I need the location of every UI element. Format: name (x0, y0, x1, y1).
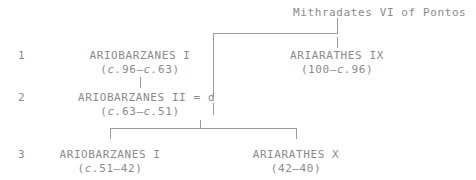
person-dates-ariobarzanes-i-gen3: (c.51–42) (77, 162, 142, 175)
circa-abbreviation: c. (107, 63, 121, 76)
person-dates-ariarathes-x: (42–40) (271, 162, 322, 175)
circa-abbreviation: c. (85, 162, 99, 175)
row-number-2: 2 (18, 91, 25, 104)
connector-bottom-horizontal (110, 128, 296, 129)
row-number-1: 1 (18, 49, 25, 62)
person-name-ariobarzanes-ii: ARIOBARZANES II = d (78, 91, 215, 104)
person-name-ariobarzanes-i-gen3: ARIOBARZANES I (59, 148, 160, 161)
circa-abbreviation: c. (144, 63, 158, 76)
connector-gen3-right-drop (296, 128, 297, 139)
circa-abbreviation: c. (144, 105, 158, 118)
person-dates-ariobarzanes-ii: (c.63–c.51) (100, 105, 179, 118)
connector-gen1-to-gen2-drop (140, 77, 141, 88)
genealogy-stemma-diagram: Mithradates VI of Pontos 1 ARIOBARZANES … (0, 0, 476, 180)
person-dates-ariobarzanes-i-gen1: (c.96–c.63) (100, 63, 179, 76)
connector-top-right-drop (337, 37, 338, 48)
connector-gen3-left-drop (110, 128, 111, 139)
person-dates-ariarathes-ix: (100–c.96) (301, 63, 373, 76)
connector-top-horizontal (213, 33, 338, 34)
circa-abbreviation: c. (107, 105, 121, 118)
row-number-3: 3 (18, 148, 25, 161)
person-name-ariobarzanes-i-gen1: ARIOBARZANES I (89, 49, 190, 62)
connector-title-stub (337, 18, 338, 33)
person-name-ariarathes-x: ARIARATHES X (253, 148, 340, 161)
person-name-ariarathes-ix: ARIARATHES IX (290, 49, 384, 62)
circa-abbreviation: c. (337, 63, 351, 76)
connector-marriage-drop (213, 103, 214, 115)
stemma-title: Mithradates VI of Pontos (293, 6, 466, 19)
connector-top-left-drop (213, 33, 214, 97)
